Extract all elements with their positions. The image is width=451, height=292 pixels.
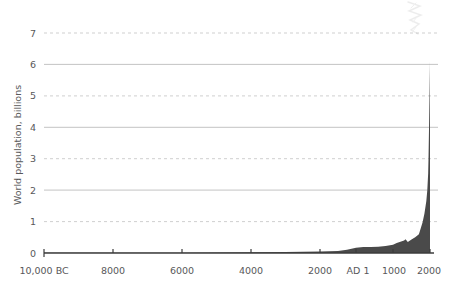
x-tick-label-10000bc: 10,000 BC <box>19 265 69 276</box>
population-area-series <box>44 61 430 253</box>
y-axis-tick-labels: 7 6 5 4 3 2 1 0 <box>30 28 36 259</box>
gridlines-group <box>44 33 438 222</box>
y-tick-label-1: 1 <box>30 216 36 227</box>
y-tick-label-0: 0 <box>30 248 36 259</box>
world-population-area-chart: 7 6 5 4 3 2 1 0 10,000 BC 8000 6000 4000… <box>0 0 451 292</box>
x-tick-label-2000ad: 2000 <box>417 265 441 276</box>
x-tick-label-2000bc: 2000 <box>308 265 332 276</box>
y-tick-label-2: 2 <box>30 185 36 196</box>
chart-container: 7 6 5 4 3 2 1 0 10,000 BC 8000 6000 4000… <box>0 0 451 292</box>
population-area-path <box>44 61 430 253</box>
y-tick-label-4: 4 <box>30 122 36 133</box>
x-tick-label-6000: 6000 <box>170 265 194 276</box>
x-tick-label-4000: 4000 <box>239 265 263 276</box>
x-tick-label-8000: 8000 <box>101 265 125 276</box>
y-tick-label-6: 6 <box>30 59 36 70</box>
x-tick-label-1000: 1000 <box>382 265 406 276</box>
x-axis-tick-labels: 10,000 BC 8000 6000 4000 2000 AD 1 1000 … <box>19 265 441 276</box>
y-tick-label-3: 3 <box>30 153 36 164</box>
y-axis-title: World population, billions <box>12 85 23 205</box>
x-tick-label-ad1: AD 1 <box>347 265 370 276</box>
y-tick-label-7: 7 <box>30 28 36 39</box>
y-tick-label-5: 5 <box>30 90 36 101</box>
